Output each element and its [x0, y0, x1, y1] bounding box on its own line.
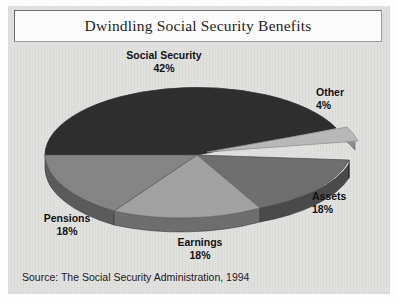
pie-label-earnings: Earnings 18%: [140, 236, 260, 261]
pie-label-social-security-value: 42%: [96, 62, 232, 75]
pie-label-other-value: 4%: [316, 99, 378, 112]
pie-label-assets: Assets 18%: [312, 190, 382, 215]
pie-label-assets-value: 18%: [312, 203, 382, 216]
pie-label-pensions-name: Pensions: [44, 212, 91, 224]
chart-title-box: Dwindling Social Security Benefits: [14, 10, 382, 42]
pie-label-earnings-name: Earnings: [178, 236, 223, 248]
pie-label-social-security-name: Social Security: [126, 49, 201, 61]
chart-source-note: Source: The Social Security Administrati…: [22, 271, 249, 283]
pie-label-social-security: Social Security 42%: [96, 49, 232, 74]
pie-label-other: Other 4%: [316, 86, 378, 111]
page-title: Dwindling Social Security Benefits: [85, 17, 312, 35]
pie-label-other-name: Other: [316, 86, 344, 98]
pie-label-earnings-value: 18%: [140, 249, 260, 262]
pie-label-pensions-value: 18%: [20, 225, 114, 238]
chart-figure: Dwindling Social Security Benefits: [0, 0, 398, 303]
pie-label-assets-name: Assets: [312, 190, 346, 202]
pie-label-pensions: Pensions 18%: [20, 212, 114, 237]
